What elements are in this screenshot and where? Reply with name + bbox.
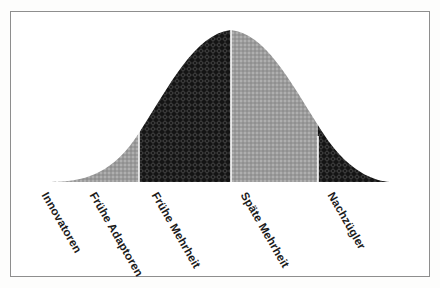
bell-curve-segments <box>45 29 392 182</box>
figure-canvas: Innovatoren Frühe Adaptoren Frühe Mehrhe… <box>0 0 440 288</box>
bell-curve-chart <box>0 0 440 288</box>
